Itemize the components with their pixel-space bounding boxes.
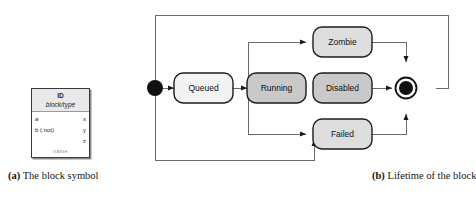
state-zombie-label: Zombie bbox=[328, 37, 357, 47]
state-failed-label: Failed bbox=[331, 129, 354, 139]
edge-failed-to-final bbox=[372, 114, 406, 134]
port-out-label: z bbox=[83, 138, 86, 144]
block-symbol: ID block/type a x b (:not) y z name bbox=[31, 88, 90, 158]
figure-a-caption: (a) The block symbol bbox=[8, 170, 99, 181]
state-queued-label: Queued bbox=[188, 83, 219, 93]
initial-state-node bbox=[147, 80, 163, 96]
edge-zombie-to-final bbox=[372, 42, 406, 62]
port-out-label: x bbox=[83, 116, 86, 122]
figure-b-caption: (b) Lifetime of the block bbox=[372, 170, 476, 181]
final-state-node bbox=[396, 78, 417, 99]
port-row: b (:not) y bbox=[32, 124, 89, 135]
port-row: z bbox=[32, 135, 89, 146]
port-in-label: b (:not) bbox=[35, 127, 54, 133]
state-disabled-label: Disabled bbox=[326, 83, 359, 93]
figure-b-caption-tag: (b) bbox=[372, 170, 385, 181]
block-port-list: a x b (:not) y z bbox=[32, 112, 89, 147]
port-out-label: y bbox=[83, 127, 86, 133]
block-footer-label: name bbox=[32, 146, 89, 156]
block-id-label: ID bbox=[57, 92, 64, 100]
block-header: ID block/type bbox=[32, 89, 89, 112]
state-running-label: Running bbox=[261, 83, 293, 93]
figure-b-state-diagram: Queued Running Zombie Disabled Failed (b… bbox=[130, 0, 464, 198]
figure-a-caption-text: The block symbol bbox=[23, 170, 99, 181]
state-machine-canvas: Queued Running Zombie Disabled Failed bbox=[130, 0, 464, 170]
port-row: a x bbox=[32, 113, 89, 124]
block-type-label: block/type bbox=[46, 100, 75, 109]
port-in-label: a bbox=[35, 116, 38, 122]
figure-b-caption-text: Lifetime of the block bbox=[387, 170, 476, 181]
figure-a-caption-tag: (a) bbox=[8, 170, 20, 181]
